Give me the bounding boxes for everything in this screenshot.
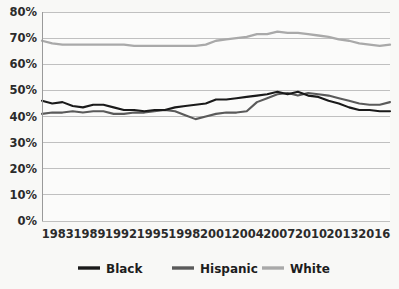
x-tick-label: 1995	[137, 227, 169, 241]
x-tick-label: 1992	[105, 227, 137, 241]
x-tick-label: 2016	[358, 227, 390, 241]
y-tick-label: 60%	[9, 57, 37, 71]
y-tick-label: 10%	[9, 188, 37, 202]
legend-label-black: Black	[106, 262, 143, 276]
x-tick-label: 2004	[232, 227, 264, 241]
x-tick-label: 2007	[263, 227, 295, 241]
x-tick-label: 2001	[200, 227, 232, 241]
line-chart: 0%10%20%30%40%50%60%70%80% 1983198919921…	[0, 0, 399, 289]
x-tick-label: 2010	[295, 227, 327, 241]
y-tick-label: 40%	[9, 110, 37, 124]
legend-label-white: White	[290, 262, 330, 276]
y-tick-label: 30%	[9, 136, 37, 150]
y-tick-label: 80%	[9, 5, 37, 19]
y-tick-label: 50%	[9, 83, 37, 97]
x-tick-label: 1998	[168, 227, 200, 241]
chart-legend: BlackHispanicWhite	[78, 262, 330, 276]
y-tick-label: 70%	[9, 31, 37, 45]
x-axis-tick-labels: 1983198919921995199820012004200720102013…	[42, 227, 390, 241]
legend-label-hispanic: Hispanic	[200, 262, 258, 276]
x-tick-label: 2013	[327, 227, 359, 241]
x-tick-label: 1983	[42, 227, 74, 241]
y-tick-label: 20%	[9, 162, 37, 176]
x-tick-label: 1989	[73, 227, 105, 241]
y-tick-label: 0%	[17, 214, 37, 228]
chart-canvas: 0%10%20%30%40%50%60%70%80% 1983198919921…	[0, 0, 399, 289]
y-axis-tick-labels: 0%10%20%30%40%50%60%70%80%	[9, 5, 37, 228]
